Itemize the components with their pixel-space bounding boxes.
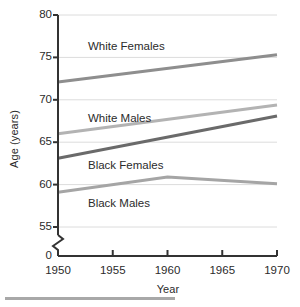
series-label-white-females: White Females [88,40,165,52]
x-tick-label: 1955 [83,264,143,276]
y-tick-label: 75 [6,51,52,63]
series-label-white-males: White Males [88,112,151,124]
y-tick-label-zero: 0 [6,250,52,262]
x-tick-label: 1950 [28,264,88,276]
x-tick-label: 1960 [138,264,198,276]
x-axis-title: Year [58,283,278,295]
axes [53,15,277,256]
y-tick-label: 80 [6,9,52,21]
series-label-black-males: Black Males [88,197,150,209]
line-chart: 8075706560550 19501955196019651970 White… [0,0,300,307]
series-line-white-females [58,55,277,82]
x-tick-label: 1970 [247,264,300,276]
y-tick-label: 55 [6,221,52,233]
bottom-divider [5,297,175,300]
y-axis-title: Age (years) [8,94,20,184]
series-label-black-females: Black Females [88,159,163,171]
x-tick-label: 1965 [192,264,252,276]
